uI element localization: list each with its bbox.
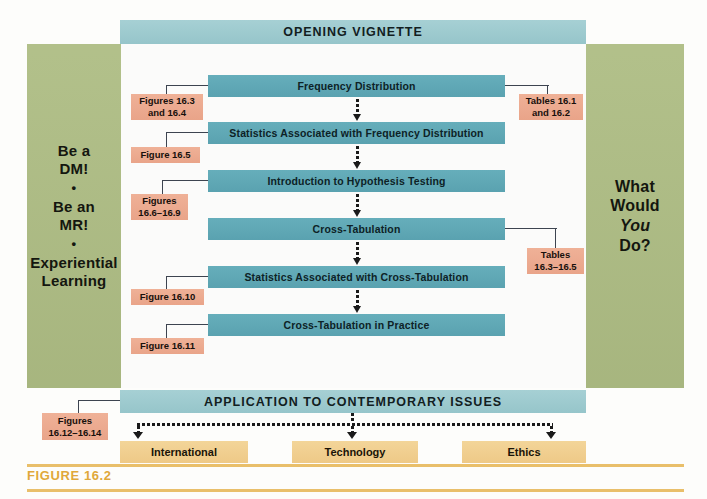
callout-line-1: Figures	[49, 415, 102, 427]
flow-arrow-down-2	[353, 146, 362, 169]
right-panel-text: What Would You Do?	[606, 177, 664, 255]
process-label: Statistics Associated with Frequency Dis…	[229, 127, 483, 139]
figure-diagram: OPENING VIGNETTE Be a DM! • Be an MR! • …	[0, 0, 707, 499]
left-panel-line-1: Be a	[30, 142, 117, 160]
left-panel-line-4: MR!	[30, 216, 117, 234]
process-label: Frequency Distribution	[297, 80, 415, 92]
application-band: APPLICATION TO CONTEMPORARY ISSUES	[120, 390, 586, 413]
right-panel-line-2: Would	[610, 196, 660, 216]
flow-arrow-down-3	[353, 194, 362, 217]
topic-label: Ethics	[507, 446, 540, 458]
figure-rule-top	[27, 464, 684, 467]
flow-arrow-down-1	[353, 99, 362, 121]
left-panel-line-6: Learning	[30, 272, 117, 290]
callout-figures-16-12-16-14: Figures 16.12–16.14	[42, 413, 108, 440]
callout-line-1: Figures	[138, 195, 180, 207]
callout-figure-16-10: Figure 16.10	[131, 289, 204, 305]
left-panel-line-5: Experiential	[30, 254, 117, 272]
callout-line-1: Figure 16.11	[140, 340, 195, 352]
right-green-panel: What Would You Do?	[586, 44, 684, 388]
process-label: Cross-Tabulation	[313, 223, 401, 235]
topic-label: International	[151, 446, 217, 458]
callout-line-2: and 16.4	[139, 107, 194, 119]
bus-arrowhead-technology	[347, 432, 357, 439]
left-panel-line-2: DM!	[30, 160, 117, 178]
left-green-panel: Be a DM! • Be an MR! • Experiential Lear…	[27, 44, 121, 388]
bus-arrowhead-ethics	[546, 432, 556, 439]
callout-line-2: 16.12–16.14	[49, 427, 102, 439]
process-box-cross-tabulation-practice: Cross-Tabulation in Practice	[208, 314, 505, 336]
process-box-statistics-frequency-distribution: Statistics Associated with Frequency Dis…	[208, 122, 505, 144]
flow-arrow-down-4	[353, 242, 362, 265]
bus-arrowhead-international	[133, 432, 143, 439]
process-box-statistics-cross-tabulation: Statistics Associated with Cross-Tabulat…	[208, 266, 505, 288]
left-panel-text: Be a DM! • Be an MR! • Experiential Lear…	[26, 142, 121, 291]
bus-horizontal	[137, 423, 553, 426]
left-panel-separator-2: •	[30, 234, 117, 254]
process-label: Statistics Associated with Cross-Tabulat…	[244, 271, 468, 283]
callout-figures-16-6-16-9: Figures 16.6–16.9	[131, 194, 188, 220]
right-panel-line-4: Do?	[610, 236, 660, 256]
callout-tables-16-1-16-2: Tables 16.1 and 16.2	[519, 94, 583, 120]
callout-line-1: Tables 16.1	[526, 95, 577, 107]
process-label: Introduction to Hypothesis Testing	[267, 175, 445, 187]
opening-vignette-band: OPENING VIGNETTE	[120, 20, 586, 44]
callout-line-1: Tables	[534, 249, 576, 261]
figure-rule-bottom	[27, 489, 684, 492]
flow-arrow-down-5	[353, 290, 362, 313]
topic-box-international: International	[120, 441, 248, 463]
callout-line-1: Figure 16.10	[140, 291, 195, 303]
left-panel-line-3: Be an	[30, 198, 117, 216]
callout-line-1: Figures 16.3	[139, 95, 194, 107]
process-box-hypothesis-testing: Introduction to Hypothesis Testing	[208, 170, 505, 192]
bus-stem	[351, 413, 354, 423]
right-panel-line-3: You	[610, 216, 660, 236]
callout-line-1: Figure 16.5	[140, 149, 190, 161]
callout-line-2: and 16.2	[526, 107, 577, 119]
callout-line-2: 16.3–16.5	[534, 261, 576, 273]
right-panel-line-1: What	[610, 177, 660, 197]
left-panel-separator-1: •	[30, 178, 117, 198]
process-box-frequency-distribution: Frequency Distribution	[208, 75, 505, 97]
application-band-label: APPLICATION TO CONTEMPORARY ISSUES	[204, 395, 502, 409]
topic-box-ethics: Ethics	[462, 441, 586, 463]
callout-tables-16-3-16-5: Tables 16.3–16.5	[527, 248, 584, 274]
process-box-cross-tabulation: Cross-Tabulation	[208, 218, 505, 240]
figure-caption: FIGURE 16.2	[27, 468, 112, 483]
topic-box-technology: Technology	[292, 441, 418, 463]
callout-figures-16-3-16-4: Figures 16.3 and 16.4	[131, 94, 203, 120]
callout-line-2: 16.6–16.9	[138, 207, 180, 219]
callout-figure-16-11: Figure 16.11	[131, 338, 204, 354]
topic-label: Technology	[325, 446, 386, 458]
opening-vignette-label: OPENING VIGNETTE	[283, 25, 423, 39]
callout-figure-16-5: Figure 16.5	[131, 147, 200, 163]
process-label: Cross-Tabulation in Practice	[284, 319, 430, 331]
